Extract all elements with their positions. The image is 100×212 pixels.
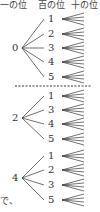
branch-line — [22, 34, 44, 48]
hundreds-node-2: 2 — [48, 29, 54, 39]
hundreds-node-4: 4 — [48, 57, 54, 67]
branch-line — [22, 48, 44, 62]
branch-line — [22, 19, 44, 48]
branch-line — [22, 170, 44, 178]
hundreds-node-1: 1 — [48, 14, 54, 24]
tree-root-0: 0 — [12, 43, 18, 53]
hundreds-node-5: 5 — [48, 134, 54, 144]
hundreds-node-1: 1 — [48, 151, 54, 161]
branch-line — [22, 110, 44, 118]
branch-line — [22, 48, 44, 77]
branch-line — [22, 156, 44, 178]
tree-root-2: 2 — [12, 113, 18, 123]
hundreds-node-3: 3 — [48, 43, 54, 53]
hundreds-node-2: 2 — [48, 165, 54, 175]
hundreds-node-3: 3 — [48, 180, 54, 190]
text-fragment: で、 — [0, 194, 18, 207]
branch-line — [22, 96, 44, 118]
hundreds-node-4: 4 — [48, 119, 54, 129]
hundreds-node-3: 3 — [48, 105, 54, 115]
hundreds-node-1: 1 — [48, 91, 54, 101]
hundreds-node-5: 5 — [48, 72, 54, 82]
hundreds-node-5: 5 — [48, 195, 54, 205]
tree-root-4: 4 — [12, 173, 18, 183]
